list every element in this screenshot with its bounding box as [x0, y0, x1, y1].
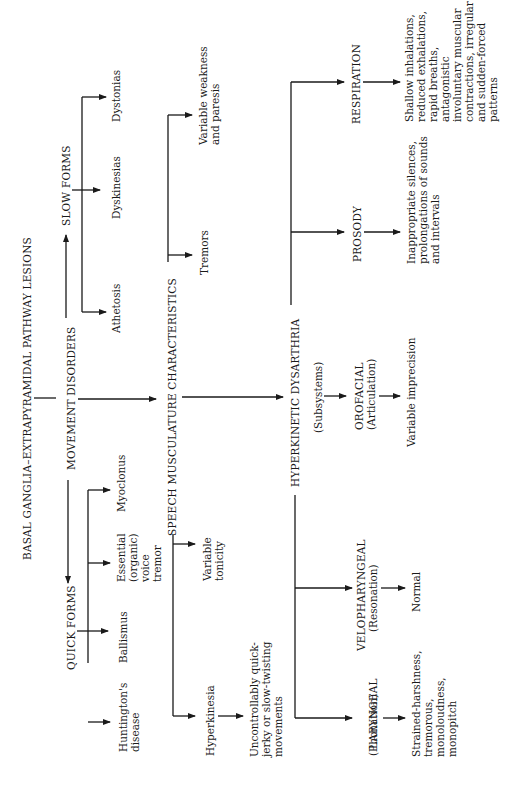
subsystem-orofacial-sub: (Articulation) [365, 359, 377, 430]
speech-musculature-label: SPEECH MUSCULATURE CHARACTERISTICS [166, 278, 178, 536]
diagram-title: BASAL GANGLIA–EXTRAPYRAMIDAL PATHWAY LES… [21, 237, 33, 560]
quick-forms-label: QUICK FORMS [65, 585, 77, 670]
velopharyngeal-detail: Normal [410, 572, 422, 612]
subsystem-orofacial: OROFACIAL [353, 362, 365, 430]
quick-form-huntingtons: Huntington's disease [117, 683, 141, 752]
quick-form-ballismus: Ballismus [117, 611, 129, 663]
subsystem-respiration: RESPIRATION [350, 44, 362, 124]
hyperkinesia-detail: Uncontrollably quick- jerky or slow-twis… [248, 642, 284, 757]
subsystem-velopharyngeal-sub: (Resonation) [367, 564, 379, 632]
subsystem-prosody: PROSODY [351, 206, 363, 262]
quick-form-myoclonus: Myoclonus [115, 455, 127, 512]
speech-hyperkinesia: Hyperkinesia [204, 685, 216, 756]
laryngeal-detail: Strained-harshness, tremorous, monoloudn… [410, 650, 458, 757]
speech-variable-tonicity: Variable tonicity [201, 537, 225, 581]
slow-form-dyskinesias: Dyskinesias [110, 156, 122, 219]
subsystem-laryngeal-sub: (Phonation) [367, 694, 379, 756]
quick-form-essential-tremor: Essential (organic) voice tremor [115, 533, 163, 582]
respiration-detail: Shallow inhalations, reduced exhalations… [403, 1, 499, 122]
speech-tremors: Tremors [198, 230, 210, 275]
subsystem-velopharyngeal: VELOPHARYNGEAL [355, 539, 367, 651]
speech-variable-weakness: Variable weakness and paresis [197, 46, 221, 145]
prosody-detail: Inappropriate silences, prolongations of… [405, 136, 441, 264]
slow-form-athetosis: Athetosis [110, 284, 122, 333]
movement-disorders-label: MOVEMENT DISORDERS [65, 327, 77, 470]
slow-forms-label: SLOW FORMS [60, 145, 72, 226]
subsystems-label: (Subsystems) [312, 362, 324, 433]
orofacial-detail: Variable imprecision [405, 338, 417, 448]
slow-form-dystonias: Dystonias [110, 70, 122, 122]
hyperkinetic-dysarthria-label: HYPERKINETIC DYSARTHRIA [289, 319, 301, 487]
